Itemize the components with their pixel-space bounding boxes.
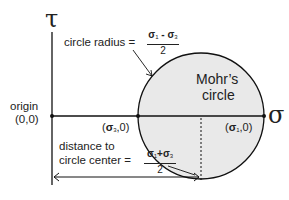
origin-point bbox=[50, 114, 54, 118]
mohr-label-line1: Mohr’s bbox=[196, 71, 238, 87]
sigma3-point bbox=[136, 114, 140, 118]
origin-label: origin bbox=[10, 100, 38, 113]
mohr-label-line2: circle bbox=[202, 87, 235, 103]
sigma-axis-label: σ bbox=[268, 103, 284, 127]
center-label-line1: distance to bbox=[59, 140, 115, 153]
center-label-line2: circle center = bbox=[59, 154, 131, 167]
tau-axis-label: τ bbox=[45, 7, 58, 31]
radius-label: circle radius = bbox=[64, 36, 135, 49]
origin-coords: (0,0) bbox=[15, 113, 39, 126]
sigma1-point-label: (σ1,0) bbox=[225, 121, 252, 137]
sigma3-point-label: (σ3,0) bbox=[102, 121, 129, 137]
sigma1-point bbox=[262, 114, 266, 118]
radius-formula: σ1 - σ3 2 bbox=[147, 29, 179, 57]
center-formula: σ1+σ3 2 bbox=[144, 148, 176, 176]
